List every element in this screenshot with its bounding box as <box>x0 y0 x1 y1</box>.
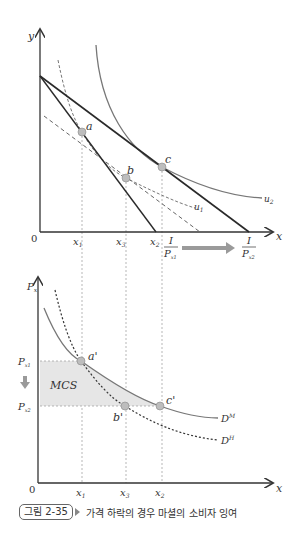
svg-text:Px2: Px2 <box>241 248 255 260</box>
point-a-prime <box>77 357 85 365</box>
intercept-second: I Px2 <box>241 235 256 260</box>
figure-number: 그림 2-35 <box>19 504 73 520</box>
budget-line-initial <box>40 76 156 232</box>
tick-x3-bottom: x3 <box>120 487 130 499</box>
caption-triangle-icon <box>75 508 80 516</box>
origin-label-bottom: 0 <box>29 484 35 495</box>
tick-x1: x1 <box>73 236 82 248</box>
price-axis-label: Px <box>26 281 38 293</box>
guide-lines <box>82 132 162 483</box>
point-c-prime <box>156 402 164 410</box>
label-b-prime: b' <box>113 411 123 424</box>
shift-arrow <box>182 242 235 254</box>
svg-text:Px1: Px1 <box>163 248 177 260</box>
label-a-prime: a' <box>88 350 98 363</box>
figure-caption: 그림 2-35 가격 하락의 경우 마셜의 소비자 잉여 <box>19 504 237 520</box>
budget-line-new <box>40 76 249 232</box>
label-b: b <box>127 164 134 177</box>
price-drop-arrow <box>20 376 30 389</box>
price-label-p1: Px1 <box>17 356 31 368</box>
u2-label: u2 <box>264 194 274 205</box>
label-c: c <box>165 153 171 166</box>
price-label-p2: Px2 <box>17 401 31 413</box>
tick-x2-bottom: x2 <box>155 487 165 499</box>
top-panel: a b c y x 0 u1 u2 x1 x3 x2 I Px1 I Px2 <box>27 30 283 483</box>
diagram-canvas: a b c y x 0 u1 u2 x1 x3 x2 I Px1 I Px2 <box>0 0 300 551</box>
dh-label: DH <box>220 434 235 446</box>
figure-title: 가격 하락의 경우 마셜의 소비자 잉여 <box>86 505 237 520</box>
tick-x1-bottom: x1 <box>76 487 85 499</box>
point-b-prime <box>121 402 129 410</box>
u1-label: u1 <box>194 202 204 213</box>
origin-label: 0 <box>31 233 37 244</box>
label-a: a <box>86 120 93 133</box>
svg-text:I: I <box>246 235 252 246</box>
label-c-prime: c' <box>166 394 175 407</box>
point-a <box>78 128 86 136</box>
y-axis-label: y <box>27 30 35 43</box>
mcs-label: MCS <box>49 379 78 392</box>
tick-x3: x3 <box>116 236 126 248</box>
tick-x2: x2 <box>150 236 160 248</box>
svg-text:I: I <box>168 235 174 246</box>
dm-label: DM <box>220 412 236 424</box>
x-axis-label: x <box>276 230 283 243</box>
quantity-axis-label: x <box>276 482 283 495</box>
indifference-curve-u2 <box>96 45 262 198</box>
bottom-panel: a' b' c' MCS Px x 0 Px1 Px2 DM DH x1 x3 … <box>17 278 283 499</box>
intercept-first: I Px1 <box>163 235 178 260</box>
